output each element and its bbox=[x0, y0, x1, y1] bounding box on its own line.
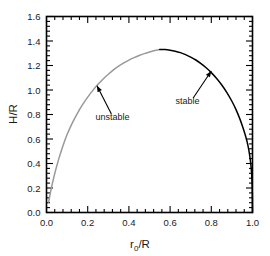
y-tick-label: 0.2 bbox=[27, 183, 40, 194]
annotation-label-unstable: unstable bbox=[95, 112, 129, 122]
x-tick-label: 0.4 bbox=[122, 217, 135, 228]
y-axis-title: H/R bbox=[7, 104, 19, 124]
y-axis-title-text: H/R bbox=[7, 104, 19, 124]
chart-figure: 0.00.20.40.60.81.0 0.00.20.40.60.81.01.2… bbox=[0, 0, 270, 256]
x-tick-label: 0.2 bbox=[81, 217, 94, 228]
y-tick-label: 1.6 bbox=[27, 11, 40, 22]
y-tick-label: 0.8 bbox=[27, 109, 40, 120]
x-tick-label: 0.0 bbox=[40, 217, 53, 228]
y-tick-label: 1.4 bbox=[27, 36, 40, 47]
x-tick-label: 0.6 bbox=[163, 217, 176, 228]
y-tick-label: 1.2 bbox=[27, 60, 40, 71]
x-axis-title-rest: /R bbox=[138, 238, 150, 250]
y-tick-label: 0.4 bbox=[27, 158, 40, 169]
y-tick-label: 1.0 bbox=[27, 85, 40, 96]
y-axis-tick-labels: 0.00.20.40.60.81.01.21.41.6 bbox=[27, 11, 40, 218]
stability-diagram-chart: 0.00.20.40.60.81.0 0.00.20.40.60.81.01.2… bbox=[0, 0, 270, 256]
x-tick-label: 1.0 bbox=[246, 217, 259, 228]
x-tick-label: 0.8 bbox=[205, 217, 218, 228]
annotation-label-stable: stable bbox=[176, 96, 200, 106]
y-tick-label: 0.6 bbox=[27, 134, 40, 145]
y-tick-label: 0.0 bbox=[27, 207, 40, 218]
